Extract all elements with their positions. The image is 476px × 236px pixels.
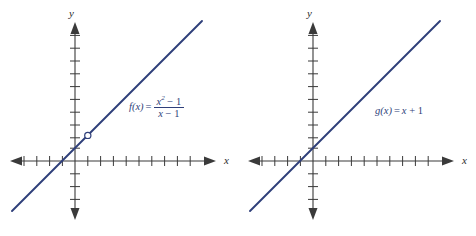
function-label-left-lhs: f(x) [129, 101, 144, 112]
y-axis-arrow-up [71, 22, 80, 34]
y-axis-arrow-down [309, 208, 318, 220]
x-axis-label-right: x [462, 155, 467, 166]
function-label-right-constant: 1 [418, 105, 423, 116]
denominator-variable: x [158, 108, 163, 119]
x-axis-label-left: x [224, 155, 229, 166]
function-label-right-equals: = [392, 105, 402, 116]
y-axis-label-right: y [307, 8, 312, 19]
x-axis-arrow-left [10, 157, 22, 166]
numerator-operator: − [167, 95, 173, 106]
numerator-exponent: 2 [161, 94, 165, 102]
figure-container: y x f(x)= x2 − 1 x − 1 [0, 0, 476, 236]
denominator-constant: 1 [174, 108, 179, 119]
denominator-operator: − [166, 108, 172, 119]
fraction-denominator: x − 1 [154, 108, 185, 119]
numerator-constant: 1 [176, 95, 181, 106]
function-label-right-variable: x [402, 105, 407, 116]
y-axis-arrow-up [309, 22, 318, 34]
function-label-right-operator: + [409, 105, 415, 116]
x-axis-arrow-right [204, 157, 216, 166]
function-label-right-lhs: g(x) [375, 105, 392, 116]
y-axis-arrow-down [71, 208, 80, 220]
graph-panel-left: y x f(x)= x2 − 1 x − 1 [0, 0, 238, 236]
x-axis-arrow-left [248, 157, 260, 166]
function-label-left: f(x)= x2 − 1 x − 1 [129, 95, 184, 120]
function-label-right: g(x)=x + 1 [375, 106, 423, 117]
graph-panel-right: y x g(x)=x + 1 [238, 0, 476, 236]
x-axis-arrow-right [442, 157, 454, 166]
fraction-numerator: x2 − 1 [154, 95, 185, 109]
function-label-left-equals: = [144, 101, 154, 112]
coordinate-plane-left [0, 0, 238, 236]
y-axis-label-left: y [69, 8, 74, 19]
coordinate-plane-right [238, 0, 476, 236]
removable-discontinuity-open-circle [85, 132, 91, 138]
function-label-left-fraction: x2 − 1 x − 1 [154, 95, 185, 120]
